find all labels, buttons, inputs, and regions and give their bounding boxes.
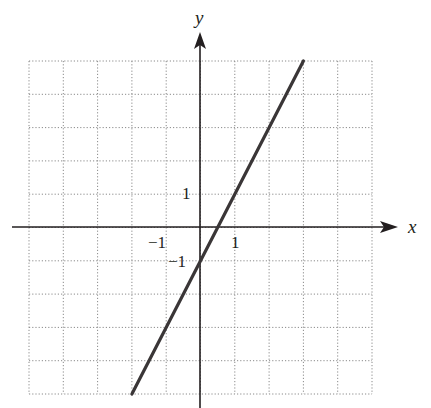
x-axis-label: x: [407, 216, 417, 237]
y-tick-label-1: 1: [182, 184, 191, 203]
coordinate-plane: x y −1 1 1 −1: [0, 0, 431, 408]
x-tick-label-neg1: −1: [148, 233, 166, 252]
x-tick-label-1: 1: [231, 233, 240, 252]
y-axis-label: y: [193, 7, 204, 28]
axes: [12, 32, 398, 408]
y-tick-label-neg1: −1: [168, 252, 186, 271]
